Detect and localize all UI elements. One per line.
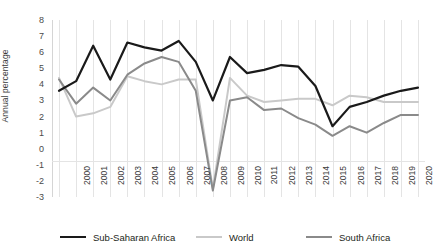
legend-swatch-line xyxy=(60,236,86,239)
y-axis-tick-7: 7 xyxy=(22,32,44,41)
y-axis-tick-6: 6 xyxy=(22,48,44,57)
legend-label: South Africa xyxy=(339,232,390,243)
series-line-sub-saharan-africa xyxy=(59,41,418,126)
x-axis-tick-2001: 2001 xyxy=(99,166,109,185)
x-axis-tick-2015: 2015 xyxy=(338,166,348,185)
y-axis-tick-neg3: -3 xyxy=(22,193,44,202)
legend-swatch-line xyxy=(196,236,222,239)
y-axis-tick-2: 2 xyxy=(22,113,44,122)
x-axis-tick-2010: 2010 xyxy=(253,166,263,185)
x-axis-tick-2007: 2007 xyxy=(202,166,212,185)
chart-legend: Sub-Saharan AfricaWorldSouth Africa xyxy=(0,226,437,248)
y-axis-tick-labels: 876543210-1-2-3 xyxy=(22,0,44,252)
x-axis-tick-2020: 2020 xyxy=(424,166,434,185)
y-axis-tick-1: 1 xyxy=(22,129,44,138)
x-axis-tick-2004: 2004 xyxy=(150,166,160,185)
y-axis-tick-4: 4 xyxy=(22,80,44,89)
line-chart: Annual percentage 876543210-1-2-3 200020… xyxy=(0,0,437,252)
y-axis-title-text: Annual percentage xyxy=(0,26,13,146)
y-axis-tick-3: 3 xyxy=(22,96,44,105)
x-axis-tick-2003: 2003 xyxy=(133,166,143,185)
x-axis-tick-2013: 2013 xyxy=(304,166,314,185)
legend-swatch-line xyxy=(306,236,332,239)
x-axis-tick-2002: 2002 xyxy=(116,166,126,185)
legend-label: World xyxy=(229,232,254,243)
x-axis-tick-2006: 2006 xyxy=(184,166,194,185)
legend-item-south-africa[interactable]: South Africa xyxy=(306,232,390,243)
x-axis-tick-2005: 2005 xyxy=(167,166,177,185)
y-axis-tick-0: 0 xyxy=(22,145,44,154)
y-axis-tick-neg2: -2 xyxy=(22,177,44,186)
x-axis-tick-2014: 2014 xyxy=(321,166,331,185)
x-axis-tick-2019: 2019 xyxy=(407,166,417,185)
x-axis-tick-2009: 2009 xyxy=(236,166,246,185)
x-axis-tick-2000: 2000 xyxy=(82,166,92,185)
x-axis-tick-2012: 2012 xyxy=(287,166,297,185)
y-axis-tick-5: 5 xyxy=(22,64,44,73)
legend-item-sub-saharan-africa[interactable]: Sub-Saharan Africa xyxy=(60,232,175,243)
x-axis-tick-2016: 2016 xyxy=(355,166,365,185)
y-axis-tick-neg1: -1 xyxy=(22,161,44,170)
x-axis-tick-2008: 2008 xyxy=(219,166,229,185)
legend-label: Sub-Saharan Africa xyxy=(93,232,175,243)
x-axis-tick-2018: 2018 xyxy=(390,166,400,185)
y-axis-title: Annual percentage xyxy=(0,0,13,52)
x-axis-tick-2011: 2011 xyxy=(269,166,279,184)
x-axis-tick-2017: 2017 xyxy=(373,166,383,185)
legend-item-world[interactable]: World xyxy=(196,232,254,243)
y-axis-tick-8: 8 xyxy=(22,16,44,25)
